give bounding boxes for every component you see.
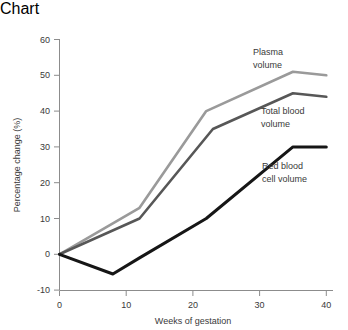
series-label-total-line2: volume [261, 119, 290, 129]
y-tick-label-10: 10 [40, 214, 50, 224]
x-tick-label-10: 10 [121, 300, 131, 310]
y-tick-label-60: 60 [40, 35, 50, 45]
y-tick-label-50: 50 [40, 70, 50, 80]
x-tick-label-40: 40 [321, 300, 331, 310]
y-tick-label-20: 20 [40, 178, 50, 188]
line-chart: 60 50 40 30 20 10 0 -10 0 10 20 30 40 We… [0, 18, 348, 330]
series-label-plasma-volume: Plasma volume [253, 47, 283, 70]
series-label-plasma-line1: Plasma [253, 47, 283, 57]
y-tick-label-30: 30 [40, 142, 50, 152]
y-axis-title: Percentage change (%) [12, 118, 22, 213]
series-label-total-line1: Total blood [261, 106, 305, 116]
series-label-plasma-line2: volume [253, 60, 282, 70]
x-axis-title: Weeks of gestation [155, 316, 231, 326]
y-tick-label-0: 0 [45, 249, 50, 259]
series-label-rbc-line2: cell volume [262, 174, 307, 184]
series-label-red-blood-cell-volume: Red blood cell volume [262, 161, 307, 184]
series-label-total-blood-volume: Total blood volume [261, 106, 305, 129]
x-tick-label-30: 30 [255, 300, 265, 310]
y-tick-label-minus10: -10 [37, 285, 50, 295]
x-axis-ticks [60, 291, 327, 297]
y-tick-label-40: 40 [40, 106, 50, 116]
series-label-rbc-line1: Red blood [262, 161, 303, 171]
y-axis-ticks [54, 40, 60, 291]
x-tick-label-0: 0 [57, 300, 62, 310]
chart-container: 60 50 40 30 20 10 0 -10 0 10 20 30 40 We… [0, 18, 348, 330]
x-tick-label-20: 20 [188, 300, 198, 310]
